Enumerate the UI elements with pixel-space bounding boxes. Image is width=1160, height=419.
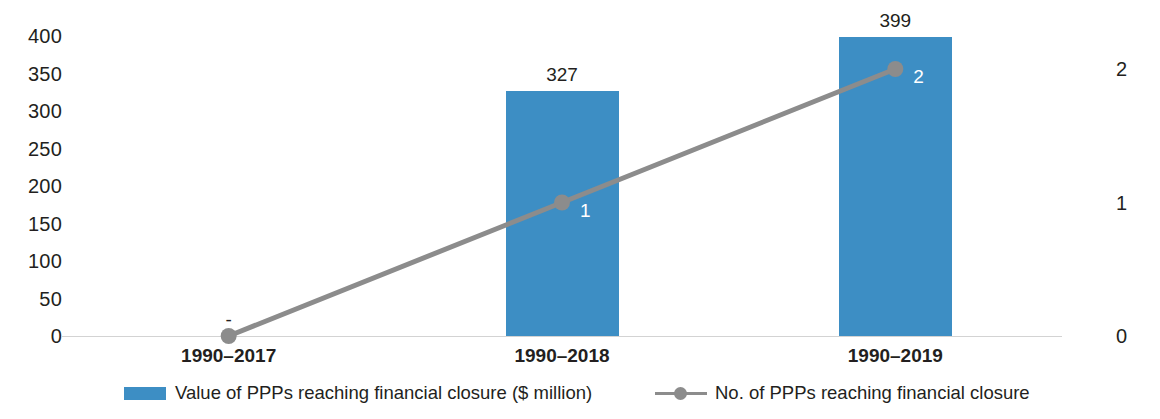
- legend-item-label: Value of PPPs reaching financial closure…: [175, 383, 592, 403]
- chart-legend: Value of PPPs reaching financial closure…: [0, 383, 1160, 413]
- line-marker[interactable]: [554, 195, 570, 211]
- line-series: [62, 18, 1062, 338]
- x-axis-category-label: 1990–2017: [129, 345, 329, 367]
- left-axis-tick: 0: [51, 326, 62, 346]
- left-axis-tick: 150: [28, 214, 62, 234]
- right-axis-tick: 2: [1116, 59, 1127, 79]
- line-marker-swatch-icon: [655, 386, 707, 400]
- line-value-label: 1: [580, 201, 591, 220]
- chart-container: 400350300250200150100500 210 -327399 12 …: [0, 0, 1160, 419]
- left-axis-tick: 100: [28, 251, 62, 271]
- x-axis-category-label: 1990–2019: [795, 345, 995, 367]
- left-axis-tick: 350: [28, 64, 62, 84]
- plot-area: -327399 12: [62, 18, 1062, 338]
- legend-item-label: No. of PPPs reaching financial closure: [715, 383, 1030, 403]
- legend-item-no-of-ppps[interactable]: No. of PPPs reaching financial closure: [655, 383, 1030, 403]
- left-axis-tick: 400: [28, 26, 62, 46]
- right-axis-tick: 1: [1116, 193, 1127, 213]
- left-axis-tick: 50: [39, 289, 62, 309]
- line-marker[interactable]: [887, 61, 903, 77]
- left-axis-tick: 200: [28, 176, 62, 196]
- left-axis-tick: 300: [28, 101, 62, 121]
- left-axis-tick: 250: [28, 139, 62, 159]
- legend-item-value-of-ppps[interactable]: Value of PPPs reaching financial closure…: [124, 383, 592, 403]
- x-axis-category-label: 1990–2018: [462, 345, 662, 367]
- line-marker[interactable]: [221, 328, 237, 344]
- bar-swatch-icon: [124, 387, 166, 400]
- line-value-label: 2: [913, 67, 924, 86]
- right-axis-tick: 0: [1116, 326, 1127, 346]
